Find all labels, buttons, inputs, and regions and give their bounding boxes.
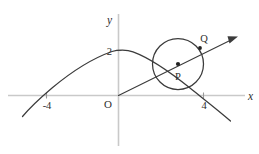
point-p-dot: [176, 62, 180, 66]
point-q-label: Q: [200, 33, 208, 44]
ray-arrowhead-icon: [228, 36, 239, 43]
point-q-dot: [198, 46, 202, 50]
point-p-label: P: [175, 71, 181, 82]
y-tick-label-two: 2: [107, 46, 112, 57]
x-tick-label-negative-four: -4: [43, 100, 52, 111]
x-tick-label-four: 4: [201, 100, 207, 111]
x-axis-label: x: [247, 90, 254, 102]
origin-label: O: [104, 98, 112, 110]
y-axis-label: y: [106, 14, 113, 27]
figure-canvas: y x O 2 -4 4 P Q: [0, 0, 259, 154]
geometry-figure: y x O 2 -4 4 P Q: [0, 0, 259, 154]
ray-line: [119, 40, 233, 96]
parabola-curve: [23, 50, 231, 121]
